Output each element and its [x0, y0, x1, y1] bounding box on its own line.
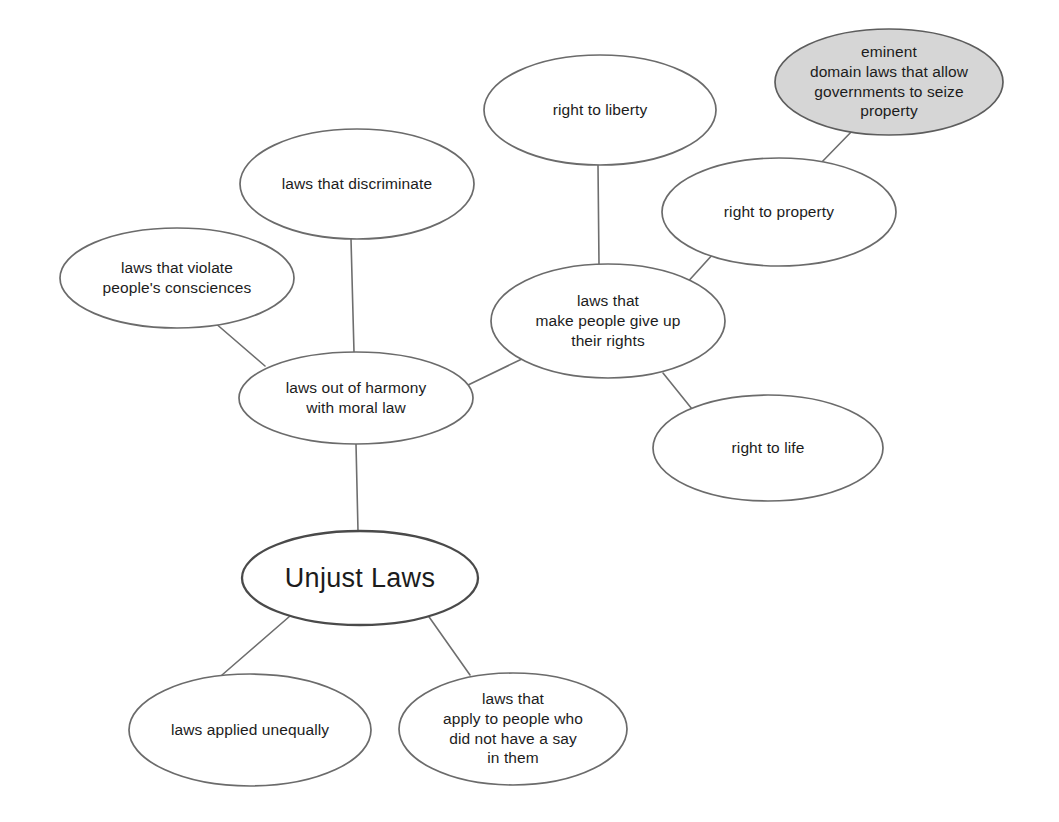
node-ellipse-unjust-laws[interactable] [242, 531, 478, 625]
connector-line-laws-give-up-rights-to-right-to-life [663, 373, 692, 409]
connector-line-unjust-laws-to-laws-no-say [427, 614, 470, 675]
connector-line-unjust-laws-to-laws-out-of-harmony [356, 444, 358, 531]
node-ellipse-right-to-life[interactable] [653, 395, 883, 501]
node-ellipse-right-to-liberty[interactable] [484, 55, 716, 165]
node-ellipse-eminent-domain-laws[interactable] [775, 29, 1003, 135]
node-ellipse-laws-applied-unequally[interactable] [129, 674, 371, 786]
node-ellipse-laws-no-say[interactable] [399, 673, 627, 785]
connector-line-laws-out-of-harmony-to-laws-that-violate-consciences [214, 322, 265, 366]
node-ellipse-laws-that-violate-consciences[interactable] [60, 228, 294, 328]
node-ellipse-laws-out-of-harmony[interactable] [239, 352, 473, 444]
concept-map-svg [0, 0, 1059, 822]
concept-map-canvas: Unjust Lawslaws out of harmony with mora… [0, 0, 1059, 822]
node-ellipse-laws-that-discriminate[interactable] [240, 129, 474, 239]
node-ellipse-right-to-property[interactable] [662, 158, 896, 266]
node-ellipse-laws-give-up-rights[interactable] [491, 264, 725, 378]
connector-line-laws-give-up-rights-to-right-to-liberty [598, 165, 599, 264]
connector-line-right-to-property-to-eminent-domain-laws [819, 128, 855, 165]
connector-line-laws-out-of-harmony-to-laws-that-discriminate [351, 239, 354, 352]
connector-line-laws-out-of-harmony-to-laws-give-up-rights [466, 358, 524, 386]
connector-line-unjust-laws-to-laws-applied-unequally [222, 616, 290, 675]
nodes-group [60, 29, 1003, 786]
